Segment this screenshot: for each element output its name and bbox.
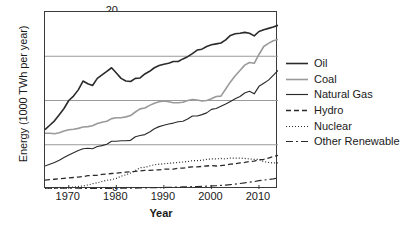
legend-item-coal[interactable]: Coal — [286, 72, 398, 88]
x-tick-2010: 2010 — [236, 190, 280, 202]
series-line-other-renewable — [45, 178, 278, 189]
legend-item-hydro[interactable]: Hydro — [286, 103, 398, 119]
x-tick-1990: 1990 — [141, 190, 185, 202]
legend-swatch-icon — [286, 121, 308, 132]
legend-swatch-icon — [286, 74, 308, 85]
legend-label: Hydro — [314, 105, 343, 116]
legend-label: Oil — [314, 58, 327, 69]
x-axis-label: Year — [44, 207, 278, 219]
chart-legend: OilCoalNatural GasHydroNuclearOther Rene… — [286, 56, 398, 150]
legend-swatch-icon — [286, 105, 308, 116]
legend-item-oil[interactable]: Oil — [286, 56, 398, 72]
y-axis-label: Energy (1000 TWh per year) — [17, 9, 29, 179]
series-line-oil — [45, 25, 278, 129]
legend-label: Nuclear — [314, 121, 352, 132]
x-tick-1970: 1970 — [46, 190, 90, 202]
legend-item-natural-gas[interactable]: Natural Gas — [286, 87, 398, 103]
legend-swatch-icon — [286, 136, 308, 147]
legend-swatch-icon — [286, 58, 308, 69]
x-tick-2000: 2000 — [188, 190, 232, 202]
legend-item-nuclear[interactable]: Nuclear — [286, 118, 398, 134]
legend-swatch-icon — [286, 89, 308, 100]
series-line-natural-gas — [45, 70, 278, 166]
plot-area — [44, 11, 277, 188]
series-canvas — [45, 12, 278, 189]
legend-label: Natural Gas — [314, 89, 373, 100]
legend-item-other-renewable[interactable]: Other Renewable — [286, 134, 398, 150]
legend-label: Other Renewable — [314, 136, 400, 147]
series-line-nuclear — [45, 158, 278, 189]
legend-label: Coal — [314, 74, 337, 85]
x-tick-1980: 1980 — [93, 190, 137, 202]
series-line-hydro — [45, 155, 278, 180]
